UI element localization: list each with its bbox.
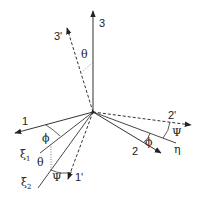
label-eta: η: [174, 143, 181, 156]
psi-arc-right: [163, 122, 170, 138]
label-theta-top: θ: [81, 48, 88, 61]
euler-angle-diagram: 3 3' θ 1 ϕ ξ1 θ ξ2 Ψ 1' 2 ϕ η Ψ 2': [0, 0, 200, 198]
axis-xi2: [38, 112, 93, 188]
label-xi1: ξ1: [20, 148, 31, 163]
label-theta-left: θ: [37, 156, 44, 169]
label-xi2: ξ2: [21, 176, 32, 191]
axis-eta: [93, 112, 176, 143]
label-3-prime: 3': [54, 30, 62, 42]
xi1-subscript: 1: [26, 155, 30, 163]
axis-3-prime: [67, 28, 93, 112]
label-1: 1: [22, 115, 28, 127]
label-2: 2: [132, 145, 138, 157]
label-3: 3: [99, 17, 105, 29]
xi2-subscript: 2: [27, 183, 31, 191]
theta-arc-top: [82, 62, 93, 72]
label-psi-bottom: Ψ: [52, 171, 62, 184]
label-1-prime: 1': [75, 171, 83, 183]
axis-2-prime: [93, 112, 191, 125]
label-phi-left: ϕ: [42, 132, 50, 145]
label-2-prime: 2': [168, 109, 176, 121]
label-psi-right: Ψ: [172, 126, 182, 139]
label-phi-right: ϕ: [145, 136, 153, 149]
origin-point: [92, 111, 95, 114]
